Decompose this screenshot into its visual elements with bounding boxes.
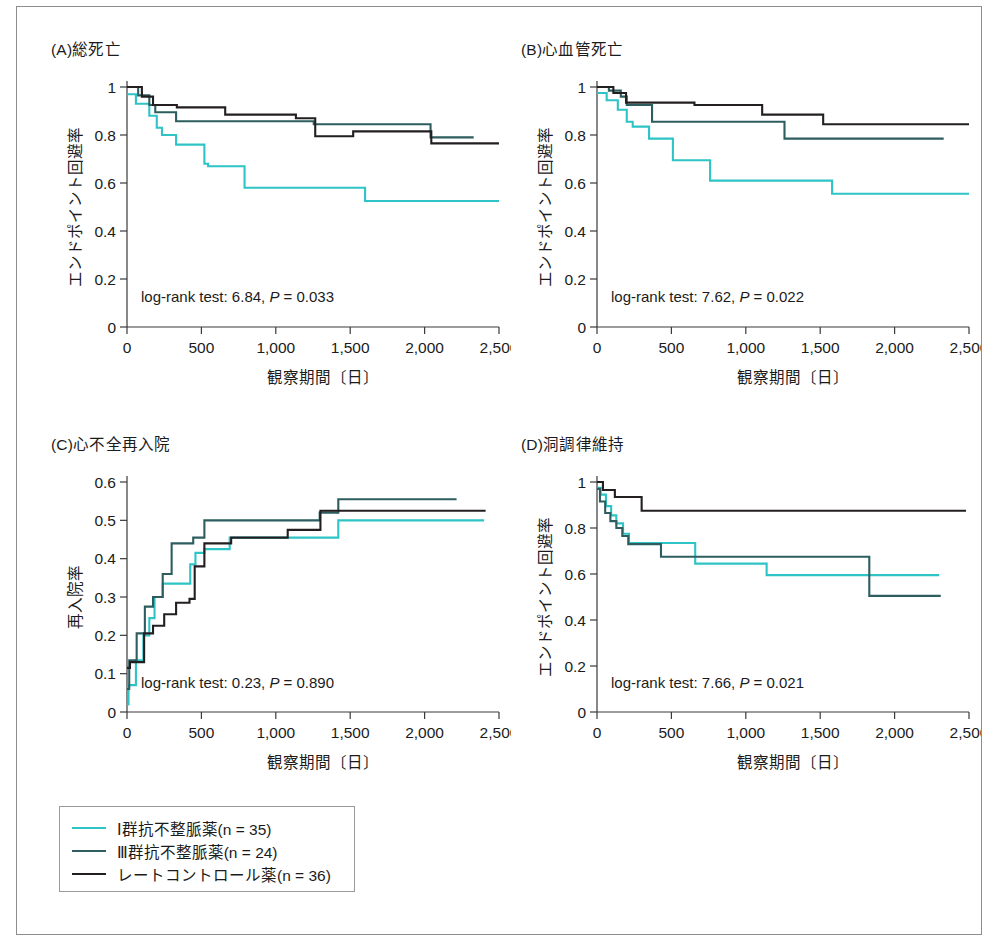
y-tick-label: 0.6 — [564, 175, 586, 192]
y-tick-label: 0.4 — [564, 612, 586, 629]
y-tick-label: 0.1 — [94, 665, 116, 682]
legend-item-class-I: Ⅰ群抗不整脈薬(n = 35) — [72, 817, 271, 839]
x-tick-label: 2,000 — [405, 724, 444, 741]
km-curve-class_III — [127, 87, 474, 137]
y-tick-label: 0.4 — [94, 550, 116, 567]
y-tick-label: 1 — [107, 79, 116, 96]
x-tick-label: 500 — [658, 724, 684, 741]
y-tick-label: 0 — [577, 319, 586, 336]
y-tick-label: 0.6 — [94, 474, 116, 491]
y-tick-label: 0.4 — [94, 223, 116, 240]
panel-A: (A)総死亡 00.20.40.60.8105001,0001,5002,000… — [41, 37, 511, 407]
panel-C: (C)心不全再入院 00.10.20.30.40.50.605001,0001,… — [41, 432, 511, 792]
y-tick-label: 0.3 — [94, 589, 116, 606]
logrank-annotation: log-rank test: 0.23, P = 0.890 — [141, 674, 334, 691]
y-tick-label: 0.8 — [564, 127, 586, 144]
x-tick-label: 1,500 — [801, 724, 840, 741]
x-axis-title: 観察期間〔日〕 — [737, 754, 849, 771]
y-tick-label: 0.5 — [94, 512, 116, 529]
y-tick-label: 1 — [577, 474, 586, 491]
y-axis-title: エンドポイント回避率 — [67, 127, 84, 287]
x-tick-label: 500 — [188, 724, 214, 741]
x-tick-label: 2,500 — [950, 339, 981, 356]
y-axis-title: エンドポイント回避率 — [537, 517, 554, 677]
km-curve-class_III — [127, 499, 457, 689]
legend-item-rate-control: レートコントロール薬(n = 36) — [72, 863, 331, 885]
legend-label-class-I: Ⅰ群抗不整脈薬(n = 35) — [117, 817, 271, 839]
x-tick-label: 0 — [123, 339, 132, 356]
logrank-annotation: log-rank test: 6.84, P = 0.033 — [141, 288, 334, 305]
legend-swatch-class-III — [72, 850, 106, 852]
y-tick-label: 0 — [107, 319, 116, 336]
x-tick-label: 2,000 — [405, 339, 444, 356]
panel-B-plot: 00.20.40.60.8105001,0001,5002,0002,500観察… — [511, 65, 981, 405]
x-tick-label: 1,500 — [331, 724, 370, 741]
logrank-annotation: log-rank test: 7.66, P = 0.021 — [611, 674, 804, 691]
x-tick-label: 2,000 — [875, 339, 914, 356]
panel-C-plot: 00.10.20.30.40.50.605001,0001,5002,0002,… — [41, 460, 511, 790]
x-tick-label: 0 — [123, 724, 132, 741]
km-curve-class_I — [597, 488, 939, 575]
km-curve-rate — [127, 87, 499, 143]
x-tick-label: 500 — [658, 339, 684, 356]
x-tick-label: 1,000 — [256, 724, 295, 741]
legend-item-class-III: Ⅲ群抗不整脈薬(n = 24) — [72, 840, 278, 862]
x-tick-label: 1,500 — [331, 339, 370, 356]
y-tick-label: 0.2 — [94, 271, 116, 288]
y-tick-label: 0.6 — [94, 175, 116, 192]
figure-border: (A)総死亡 00.20.40.60.8105001,0001,5002,000… — [16, 6, 982, 935]
y-tick-label: 0.2 — [564, 271, 586, 288]
y-tick-label: 0 — [107, 704, 116, 721]
x-tick-label: 1,000 — [726, 339, 765, 356]
y-axis-title: エンドポイント回避率 — [537, 127, 554, 287]
x-tick-label: 2,500 — [480, 339, 511, 356]
legend-label-rate-control: レートコントロール薬(n = 36) — [117, 863, 331, 885]
y-tick-label: 0.2 — [94, 627, 116, 644]
y-axis-title: 再入院率 — [66, 565, 84, 629]
x-tick-label: 2,000 — [875, 724, 914, 741]
x-axis-title: 観察期間〔日〕 — [267, 754, 379, 771]
panel-D-title: (D)洞調律維持 — [521, 432, 624, 454]
km-curve-rate — [127, 511, 486, 668]
logrank-annotation: log-rank test: 7.62, P = 0.022 — [611, 288, 804, 305]
km-curve-class_I — [127, 94, 499, 201]
x-tick-label: 2,500 — [480, 724, 511, 741]
y-tick-label: 0.4 — [564, 223, 586, 240]
y-tick-label: 1 — [577, 79, 586, 96]
y-tick-label: 0.2 — [564, 658, 586, 675]
x-tick-label: 1,000 — [726, 724, 765, 741]
x-axis-title: 観察期間〔日〕 — [737, 369, 849, 386]
panel-B-title: (B)心血管死亡 — [521, 37, 623, 59]
legend-swatch-class-I — [72, 827, 106, 829]
x-tick-label: 1,500 — [801, 339, 840, 356]
x-tick-label: 0 — [593, 339, 602, 356]
y-tick-label: 0.6 — [564, 566, 586, 583]
panel-B: (B)心血管死亡 00.20.40.60.8105001,0001,5002,0… — [511, 37, 981, 407]
x-axis-title: 観察期間〔日〕 — [267, 369, 379, 386]
y-tick-label: 0.8 — [94, 127, 116, 144]
legend: Ⅰ群抗不整脈薬(n = 35) Ⅲ群抗不整脈薬(n = 24) レートコントロー… — [59, 806, 355, 892]
panel-A-title: (A)総死亡 — [51, 37, 121, 59]
panel-C-title: (C)心不全再入院 — [51, 432, 170, 454]
legend-label-class-III: Ⅲ群抗不整脈薬(n = 24) — [117, 840, 278, 862]
x-tick-label: 2,500 — [950, 724, 981, 741]
panel-D-plot: 00.20.40.60.8105001,0001,5002,0002,500観察… — [511, 460, 981, 790]
panel-A-plot: 00.20.40.60.8105001,0001,5002,0002,500観察… — [41, 65, 511, 405]
y-tick-label: 0 — [577, 704, 586, 721]
km-curve-rate — [597, 482, 966, 511]
y-tick-label: 0.8 — [564, 520, 586, 537]
x-tick-label: 500 — [188, 339, 214, 356]
legend-swatch-rate-control — [72, 873, 106, 875]
panel-D: (D)洞調律維持 00.20.40.60.8105001,0001,5002,0… — [511, 432, 981, 792]
x-tick-label: 0 — [593, 724, 602, 741]
x-tick-label: 1,000 — [256, 339, 295, 356]
